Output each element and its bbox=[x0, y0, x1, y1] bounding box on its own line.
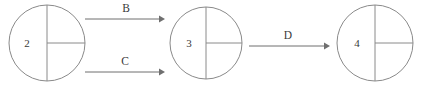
edge-c-arrowhead-icon bbox=[159, 69, 165, 76]
node-2[interactable]: 2 bbox=[9, 5, 85, 81]
edge-b-arrowhead-icon bbox=[159, 16, 165, 23]
diagram-svg: 2 3 4 B C bbox=[0, 0, 421, 89]
edge-b-label: B bbox=[122, 2, 130, 14]
node-4[interactable]: 4 bbox=[337, 5, 413, 81]
edge-d[interactable]: D bbox=[249, 29, 330, 49]
node-3[interactable]: 3 bbox=[170, 7, 242, 79]
edge-d-arrowhead-icon bbox=[324, 43, 330, 50]
node-2-label: 2 bbox=[24, 37, 30, 49]
edge-c[interactable]: C bbox=[85, 55, 165, 75]
edge-c-label: C bbox=[121, 55, 129, 67]
node-4-label: 4 bbox=[354, 37, 360, 49]
edge-b[interactable]: B bbox=[85, 2, 165, 22]
diagram-canvas: 2 3 4 B C bbox=[0, 0, 421, 89]
node-3-label: 3 bbox=[186, 37, 192, 49]
edge-d-label: D bbox=[284, 29, 292, 41]
